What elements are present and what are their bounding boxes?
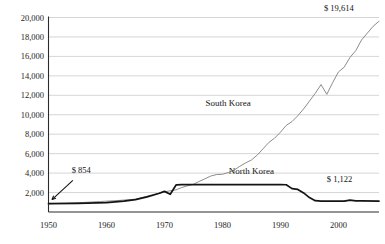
start-value-label: $ 854: [72, 165, 92, 175]
x-tick-label: 1950: [40, 220, 57, 230]
x-tick-label: 2000: [330, 220, 347, 230]
x-tick-label: 1960: [98, 220, 115, 230]
y-tick-label: 4,000: [25, 168, 44, 178]
north-korea-end-label: $ 1,122: [327, 174, 353, 184]
y-tick-label: 10,000: [21, 110, 44, 120]
start-value-arrow: [52, 180, 73, 199]
x-tick-label: 1990: [272, 220, 289, 230]
series-label-south-korea: South Korea: [206, 98, 251, 108]
y-tick-label: 2,000: [25, 188, 44, 198]
series-label-north-korea: North Korea: [229, 166, 274, 176]
y-axis-tick-labels: 2,0004,0006,0008,00010,00012,00014,00016…: [21, 13, 44, 198]
x-tick-label: 1970: [156, 220, 173, 230]
series-inline-labels: South KoreaNorth Korea: [206, 98, 274, 176]
series-line-north-korea: [49, 185, 380, 204]
gdp-per-capita-chart: 2,0004,0006,0008,00010,00012,00014,00016…: [0, 0, 385, 244]
y-tick-label: 18,000: [21, 32, 44, 42]
y-tick-label: 12,000: [21, 90, 44, 100]
y-tick-label: 20,000: [21, 13, 44, 23]
y-tick-label: 6,000: [25, 149, 44, 159]
x-tick-label: 1980: [214, 220, 231, 230]
y-tick-label: 16,000: [21, 51, 44, 61]
south-korea-end-label: $ 19,614: [324, 3, 355, 13]
y-tick-label: 14,000: [21, 71, 44, 81]
y-tick-label: 8,000: [25, 129, 44, 139]
x-axis-tick-labels: 195019601970198019902000: [40, 220, 347, 230]
chart-canvas: 2,0004,0006,0008,00010,00012,00014,00016…: [0, 0, 385, 244]
